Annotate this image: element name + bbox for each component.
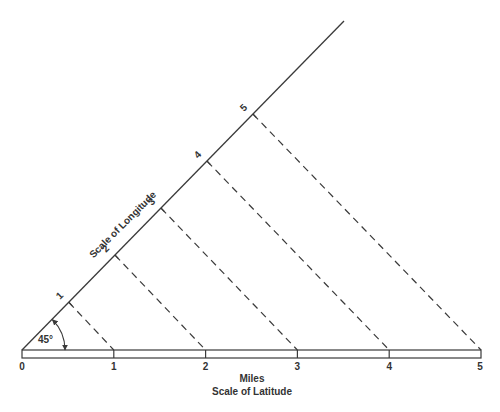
latitude-tick-0: 0 xyxy=(19,361,25,372)
projection-line-3 xyxy=(161,208,297,350)
angle-arc-icon xyxy=(52,320,65,350)
longitude-tick-5: 5 xyxy=(238,101,250,113)
longitude-tick-1: 1 xyxy=(54,289,66,301)
latitude-tick-1: 1 xyxy=(111,361,117,372)
latitude-tick-2: 2 xyxy=(203,361,209,372)
projection-line-4 xyxy=(207,161,389,350)
latitude-tick-labels: 0 1 2 3 4 5 xyxy=(19,361,483,372)
latitude-tick-4: 4 xyxy=(386,361,392,372)
latitude-unit-label: Miles xyxy=(239,373,264,384)
latitude-scale-bar xyxy=(22,350,481,358)
angle-label: 45° xyxy=(38,334,53,345)
latitude-scale-title: Scale of Latitude xyxy=(212,386,292,397)
latitude-tick-3: 3 xyxy=(295,361,301,372)
projection-line-2 xyxy=(115,255,205,350)
longitude-tick-4: 4 xyxy=(192,148,204,160)
latitude-tick-5: 5 xyxy=(477,361,483,372)
longitude-scale-title: Scale of Longitude xyxy=(87,189,158,260)
longitude-scale-line xyxy=(22,21,344,350)
projection-line-5 xyxy=(253,114,481,350)
diagonal-scale-figure: 0 1 2 3 4 5 Miles Scale of Latitude xyxy=(0,0,500,412)
projection-lines xyxy=(69,114,481,350)
projection-line-1 xyxy=(69,303,114,351)
